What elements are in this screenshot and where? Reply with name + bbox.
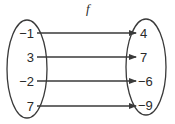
range-value: −6 (138, 74, 153, 89)
range-value: 7 (140, 50, 147, 65)
mapping-diagram: f −1 3 −2 7 4 7 −6 −9 (0, 0, 175, 124)
function-label: f (86, 1, 92, 16)
domain-value: 3 (27, 50, 34, 65)
domain-value: −2 (19, 74, 34, 89)
domain-value: 7 (27, 99, 34, 114)
range-value: 4 (140, 26, 147, 41)
domain-value: −1 (19, 26, 34, 41)
range-value: −9 (138, 98, 153, 113)
